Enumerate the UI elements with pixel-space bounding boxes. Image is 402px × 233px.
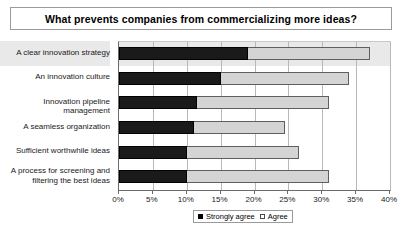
tick-label: 30% <box>306 195 336 204</box>
chart-container: What prevents companies from commerciali… <box>0 0 402 233</box>
tick-mark <box>321 190 322 194</box>
legend-swatch-agree-icon <box>260 214 265 219</box>
bar-row <box>119 42 390 67</box>
gridline <box>390 42 391 190</box>
tick-mark <box>152 190 153 194</box>
chart-legend: Strongly agreeAgree <box>193 210 293 223</box>
bar-segment-agree <box>187 170 329 183</box>
bar-row <box>119 91 390 116</box>
bar-segment-strongly-agree <box>119 96 197 109</box>
bar-segment-strongly-agree <box>119 146 187 159</box>
legend-label: Agree <box>268 212 288 221</box>
stacked-bar <box>119 72 349 85</box>
chart-title: What prevents companies from commerciali… <box>10 7 392 30</box>
bar-segment-agree <box>197 96 329 109</box>
plot-area <box>118 41 391 191</box>
category-label: An innovation culture <box>0 72 110 82</box>
legend-item: Strongly agree <box>198 212 255 221</box>
x-axis-tick-marks <box>118 190 390 194</box>
bar-row <box>119 67 390 92</box>
tick-mark <box>254 190 255 194</box>
tick-mark <box>186 190 187 194</box>
tick-label: 35% <box>340 195 370 204</box>
tick-label: 5% <box>137 195 167 204</box>
tick-label: 10% <box>171 195 201 204</box>
stacked-bar <box>119 96 329 109</box>
bar-segment-agree <box>194 121 285 134</box>
x-axis-tick-labels: 0%5%10%15%20%25%30%35%40% <box>0 195 402 207</box>
category-label: A process for screening and filtering th… <box>0 166 110 185</box>
legend-item: Agree <box>260 212 288 221</box>
tick-mark <box>118 190 119 194</box>
tick-label: 20% <box>239 195 269 204</box>
legend-swatch-strongly-agree-icon <box>198 214 203 219</box>
stacked-bar <box>119 146 299 159</box>
category-label: A seamless organization <box>0 122 110 132</box>
tick-label: 15% <box>205 195 235 204</box>
tick-label: 0% <box>103 195 133 204</box>
tick-label: 25% <box>272 195 302 204</box>
bar-rows <box>119 42 390 190</box>
bar-segment-strongly-agree <box>119 121 194 134</box>
bar-segment-agree <box>248 47 370 60</box>
legend-label: Strongly agree <box>206 212 255 221</box>
bar-segment-strongly-agree <box>119 72 221 85</box>
stacked-bar <box>119 47 370 60</box>
tick-mark <box>220 190 221 194</box>
stacked-bar <box>119 170 329 183</box>
tick-mark <box>389 190 390 194</box>
tick-label: 40% <box>374 195 402 204</box>
category-axis-labels: A clear innovation strategyAn innovation… <box>0 41 114 189</box>
bar-row <box>119 116 390 141</box>
bar-segment-strongly-agree <box>119 170 187 183</box>
category-label: Sufficient worthwhile ideas <box>0 146 110 156</box>
bar-row <box>119 165 390 190</box>
category-label: Innovation pipeline management <box>0 97 110 116</box>
bar-segment-strongly-agree <box>119 47 248 60</box>
category-label: A clear innovation strategy <box>0 41 110 66</box>
bar-segment-agree <box>187 146 299 159</box>
stacked-bar <box>119 121 285 134</box>
tick-mark <box>287 190 288 194</box>
bar-row <box>119 141 390 166</box>
bar-segment-agree <box>221 72 350 85</box>
tick-mark <box>355 190 356 194</box>
